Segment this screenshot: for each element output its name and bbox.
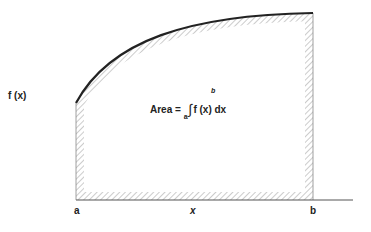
integral-sign-icon: ∫	[189, 101, 193, 117]
formula-prefix: Area =	[150, 104, 184, 115]
function-curve	[76, 13, 313, 103]
area-formula: Area = a∫bf (x) dx	[150, 100, 226, 116]
upper-bound-label: b	[310, 205, 316, 216]
y-axis-label: f (x)	[8, 90, 26, 101]
upper-limit: b	[211, 87, 215, 94]
x-axis-label: x	[190, 205, 196, 216]
lower-bound-label: a	[74, 205, 80, 216]
lower-limit: a	[184, 113, 188, 120]
integrand: f (x) dx	[193, 104, 226, 115]
